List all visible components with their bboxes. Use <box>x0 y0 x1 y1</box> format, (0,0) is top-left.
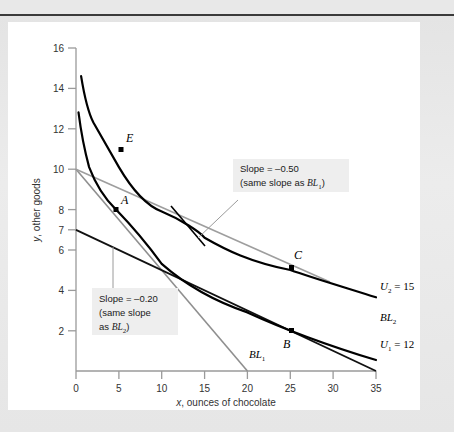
y-ticklabel-8: 8 <box>58 205 64 216</box>
curve-label-u1: U1 = 12 <box>380 338 414 353</box>
x-ticklabel-20: 20 <box>242 383 254 394</box>
point-marker-c <box>289 265 294 270</box>
y-ticklabel-16: 16 <box>53 43 65 54</box>
x-ticklabel-0: 0 <box>73 383 79 394</box>
y-ticklabel-12: 12 <box>53 124 65 135</box>
curve-label-bl2-sub: 2 <box>393 318 397 326</box>
y-axis-title: y, other goods <box>31 178 42 242</box>
y-ticklabel-6: 6 <box>58 245 64 256</box>
annotation-slope-020-line3-suffix: ) <box>126 321 129 332</box>
annotation-slope-020-line2: (same slope <box>99 307 151 318</box>
y-axis-tick-labels: 16 14 12 10 8 7 6 4 2 <box>53 43 65 337</box>
x-ticklabel-30: 30 <box>328 383 340 394</box>
y-ticklabel-2: 2 <box>58 326 64 337</box>
x-axis-title: x, ounces of chocolate <box>175 397 276 408</box>
y-ticklabel-10: 10 <box>53 164 65 175</box>
chart-canvas: 16 14 12 10 8 7 6 4 2 0 5 10 15 20 25 30… <box>0 0 454 432</box>
point-label-a: A <box>120 193 129 207</box>
x-axis-tick-labels: 0 5 10 15 20 25 30 35 <box>73 383 382 394</box>
curve-label-u2: U2 = 15 <box>380 280 415 295</box>
x-ticklabel-15: 15 <box>199 383 211 394</box>
tangent-segment-slope-050 <box>171 206 205 246</box>
curve-label-u2-value: = 15 <box>391 280 414 292</box>
point-marker-b <box>289 328 294 333</box>
x-axis-title-text: , ounces of chocolate <box>181 397 276 408</box>
curve-label-bl2: BL2 <box>380 311 397 326</box>
x-ticklabel-35: 35 <box>370 383 382 394</box>
x-ticklabel-5: 5 <box>116 383 122 394</box>
annotation-slope-050: Slope = –0.50 (same slope as BL1) <box>233 159 349 192</box>
curve-label-bl1-letters: BL <box>249 348 262 360</box>
annotation-slope-050-line1: Slope = –0.50 <box>240 163 299 174</box>
x-ticklabel-10: 10 <box>156 383 168 394</box>
curve-label-bl1: BL1 <box>249 348 266 363</box>
y-axis-ticks <box>68 48 76 331</box>
annotation-slope-050-line2-label: BL <box>307 178 318 188</box>
point-label-e: E <box>125 131 134 145</box>
y-ticklabel-7: 7 <box>58 225 64 236</box>
annotation-slope-020-line3-prefix: as <box>99 321 112 332</box>
curve-label-bl1-sub: 1 <box>262 355 266 363</box>
annotation-slope-050-line2-prefix: (same slope as <box>240 177 307 188</box>
annotation-slope-050-line2-suffix: ) <box>322 177 325 188</box>
curve-label-u1-value: = 12 <box>391 338 414 350</box>
y-axis-title-text: , other goods <box>31 178 42 236</box>
y-ticklabel-4: 4 <box>58 285 64 296</box>
x-axis-ticks <box>76 371 376 379</box>
annotation-slope-020: Slope = –0.20 (same slope as BL2) <box>92 288 178 335</box>
curve-label-bl2-letters: BL <box>380 311 393 323</box>
point-label-b: B <box>283 337 291 351</box>
point-label-c: C <box>294 248 303 262</box>
x-ticklabel-25: 25 <box>285 383 297 394</box>
point-marker-e <box>119 147 124 152</box>
point-marker-a <box>114 207 119 212</box>
y-ticklabel-14: 14 <box>53 83 65 94</box>
annotation-slope-020-line1: Slope = –0.20 <box>99 293 158 304</box>
annotation-slope-020-line3-label: BL <box>112 322 123 332</box>
